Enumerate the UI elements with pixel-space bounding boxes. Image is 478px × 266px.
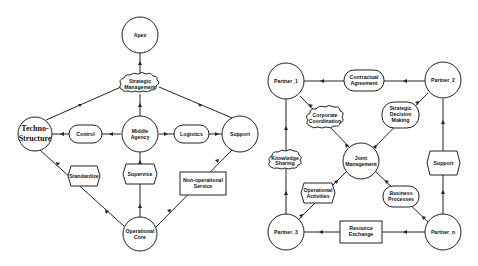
standardize-label: Standardize <box>69 173 99 179</box>
techno-structure-label-1: Techno- <box>21 124 49 133</box>
arrow-resource-to-partner3 <box>319 230 323 234</box>
corporate-coordination-label-2: Coordination <box>309 118 341 124</box>
node-logistics[interactable]: Logistics <box>174 125 209 143</box>
node-knowledge-sharing[interactable]: Knowledge Sharing <box>269 150 302 170</box>
operational-activities-label-2: Activities <box>306 193 329 199</box>
arrow-partnern-to-resource <box>403 230 407 234</box>
arrow-knowledge-to-partner1 <box>284 126 288 130</box>
arrow-contractual-to-partner1 <box>320 79 324 83</box>
strategic-decision-label-3: Making <box>392 117 410 123</box>
logistics-label: Logistics <box>180 131 203 137</box>
joint-management-label-2: Management <box>345 161 377 167</box>
organization-diagrams: Apex Strategic Management Techno- Struct… <box>0 0 478 266</box>
contractual-agreement-label-2: Agreement <box>350 80 377 86</box>
arrow-strategic-to-apex <box>138 61 142 65</box>
partner-2-label: Partner_2 <box>431 77 455 83</box>
node-apex[interactable]: Apex <box>122 17 158 53</box>
operational-core-label-2: Core <box>134 234 146 240</box>
arrow-partner3-to-knowledge <box>284 191 288 195</box>
node-strategic-management[interactable]: Strategic Management <box>120 73 159 93</box>
node-corporate-coordination[interactable]: Corporate Coordination <box>306 106 343 129</box>
business-processes-label-2: Processes <box>388 196 414 202</box>
edge-operational-to-techno <box>40 150 126 228</box>
node-non-operational-service[interactable]: Non-operational Service <box>180 172 226 195</box>
arrow-partnern-to-support <box>441 190 445 194</box>
strategic-management-label-2: Management <box>124 84 156 90</box>
partner-1-label: Partner_1 <box>274 78 298 84</box>
node-techno-structure[interactable]: Techno- Structure <box>18 117 52 151</box>
node-strategic-decision-making[interactable]: Strategic Decision Making <box>382 102 419 128</box>
arrow-nonop-to-support <box>215 159 219 163</box>
control-label: Control <box>76 131 95 137</box>
apex-label: Apex <box>134 32 147 38</box>
resource-exchange-label-2: Exchange <box>349 231 374 237</box>
node-middle-agency[interactable]: Middle Agency <box>122 116 158 152</box>
techno-structure-label-2: Structure <box>19 134 52 143</box>
right-diagram: Partner_1 Contractual Agreement Partner_… <box>268 62 461 250</box>
support-left-label: Support <box>230 131 250 137</box>
arrow-middle-to-logistics <box>164 132 168 136</box>
arrow-control-to-techno <box>60 132 64 136</box>
arrow-partner2-to-contractual <box>403 79 407 83</box>
edge-support-to-strategic <box>159 87 237 120</box>
partner-n-label: Partner_n <box>431 229 455 235</box>
node-support-left[interactable]: Support <box>222 116 258 152</box>
arrow-middle-to-strategic <box>138 103 142 107</box>
node-standardize[interactable]: Standardize <box>68 166 100 186</box>
node-joint-management[interactable]: Joint Management <box>343 143 379 179</box>
arrow-operational-to-supervise <box>138 204 142 208</box>
node-business-processes[interactable]: Business Processes <box>383 186 419 207</box>
node-supervise[interactable]: Supervise <box>123 164 157 184</box>
node-support-right[interactable]: Support <box>427 151 460 175</box>
supervise-label: Supervise <box>128 171 153 177</box>
node-contractual-agreement[interactable]: Contractual Agreement <box>344 70 384 91</box>
node-operational-activities[interactable]: Operational Activities <box>301 183 335 203</box>
support-right-label: Support <box>434 160 454 166</box>
arrow-middle-to-control <box>109 132 113 136</box>
node-partner-n[interactable]: Partner_n <box>425 214 461 250</box>
node-partner-2[interactable]: Partner_2 <box>425 62 461 98</box>
node-partner-3[interactable]: Partner_3 <box>268 214 304 250</box>
arrow-support-to-strategic <box>198 104 202 107</box>
middle-agency-label-2: Agency <box>131 134 150 140</box>
left-diagram: Apex Strategic Management Techno- Struct… <box>18 17 258 251</box>
node-partner-1[interactable]: Partner_1 <box>268 63 304 99</box>
node-operational-core[interactable]: Operational Core <box>123 217 157 251</box>
arrow-support-to-partner2 <box>441 120 445 124</box>
non-operational-service-label-2: Service <box>194 183 213 189</box>
node-resource-exchange[interactable]: Resource Exchange <box>340 221 382 243</box>
arrow-logistics-to-support <box>215 132 219 136</box>
node-control[interactable]: Control <box>69 125 102 143</box>
knowledge-sharing-label-2: Sharing <box>275 160 294 166</box>
partner-3-label: Partner_3 <box>274 229 298 235</box>
arrow-supervise-to-middle <box>138 160 142 164</box>
edge-techno-to-strategic <box>46 87 121 120</box>
